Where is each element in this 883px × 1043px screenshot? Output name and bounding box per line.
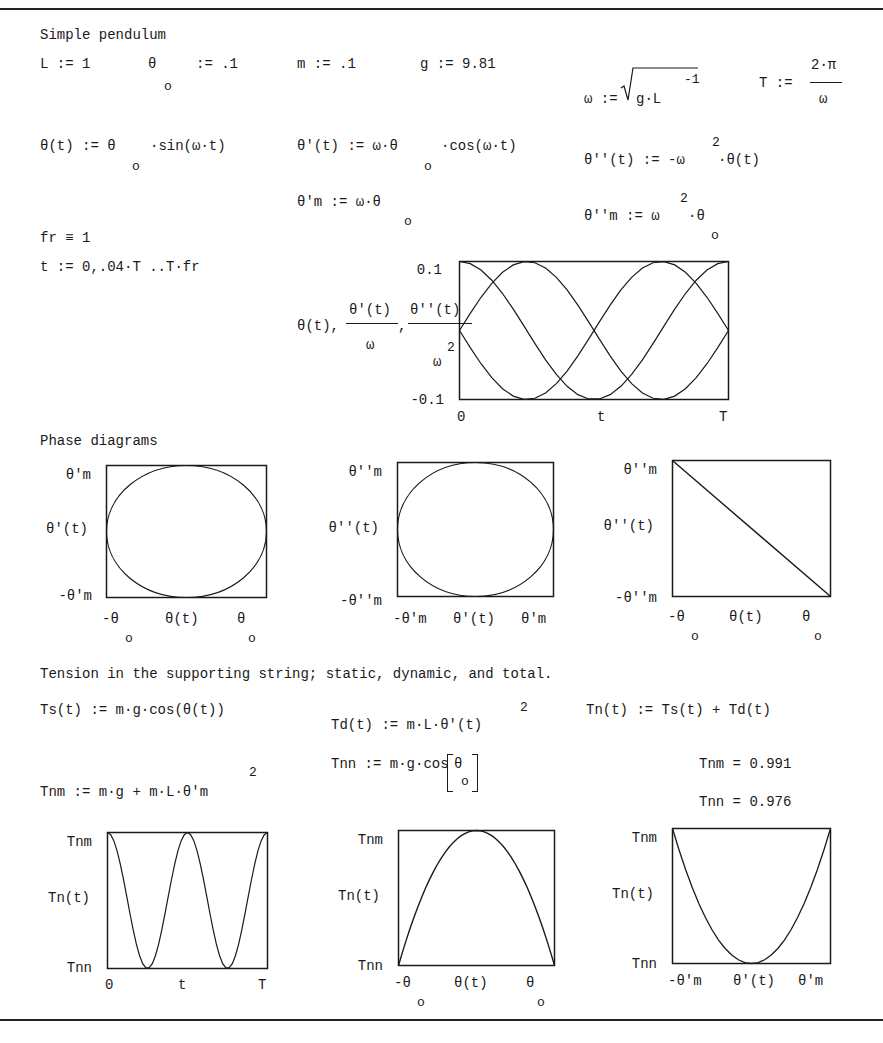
phase3-ytick-max: θ''m <box>623 462 657 478</box>
omega-radicand: g·L <box>636 91 661 107</box>
Tnm-result: Tnm = 0.991 <box>699 756 791 772</box>
tension2-ytick-min: Tnn <box>358 958 383 974</box>
phase1-xtick-min: -θ <box>102 611 119 627</box>
tension3-ytick-max: Tnm <box>632 830 657 846</box>
theta-t-rhs: ·sin(ω·t) <box>150 138 226 154</box>
tension3-ytick-min: Tnn <box>632 956 657 972</box>
tension3-xtick-max: θ'm <box>798 973 823 989</box>
time-plot-xlabel: t <box>597 409 605 425</box>
theta2m-subscript: o <box>711 229 719 242</box>
tension2-xtick-min: -θ <box>394 975 411 991</box>
time-plot-xtick-max: T <box>719 409 727 425</box>
tension2-xtick-max-sub: o <box>537 996 545 1009</box>
Ts-def[interactable]: Ts(t) := m·g·cos(θ(t)) <box>40 702 225 718</box>
tension3-plot[interactable] <box>672 828 831 964</box>
Tnm-def-exponent: 2 <box>249 766 257 779</box>
tension2-plot[interactable] <box>398 830 555 966</box>
Tnn-def-bracket-right <box>472 754 478 792</box>
bottom-rule <box>0 1019 883 1021</box>
param-m[interactable]: m := .1 <box>297 56 356 72</box>
time-plot-frac1-bar <box>346 323 398 324</box>
tension1-ylabel: Tn(t) <box>48 890 90 906</box>
tension1-canvas <box>107 832 268 969</box>
time-plot-ylabel-theta: θ(t), <box>297 318 339 334</box>
theta-t-def[interactable]: θ(t) := θ <box>40 138 116 154</box>
phase1-xtick-max-sub: o <box>248 632 256 645</box>
theta2-t-rhs: ·θ(t) <box>718 152 760 168</box>
tension1-ytick-max: Tnm <box>67 834 92 850</box>
Tnm-def[interactable]: Tnm := m·g + m·L·θ'm <box>40 784 208 800</box>
theta1-t-rhs: ·cos(ω·t) <box>441 138 517 154</box>
phase1-ytick-max: θ'm <box>66 467 91 483</box>
tension3-xtick-min: -θ'm <box>668 973 702 989</box>
fr-def[interactable]: fr ≡ 1 <box>40 230 90 246</box>
phase2-xtick-min: -θ'm <box>393 611 427 627</box>
Tnn-def-theta: θ <box>454 756 462 772</box>
phase1-xtick-min-sub: o <box>125 632 133 645</box>
t-range-def[interactable]: t := 0,.04·T ..T·fr <box>40 259 200 275</box>
tension2-xtick-min-sub: o <box>417 996 425 1009</box>
phase3-xtick-min: -θ <box>668 609 685 625</box>
omega-exponent: -1 <box>684 73 700 86</box>
tension2-canvas <box>398 830 555 966</box>
phase2-xlabel: θ'(t) <box>453 611 495 627</box>
T-def-lhs[interactable]: T := <box>759 75 793 91</box>
time-plot-ylabel-den2: ω <box>433 354 441 370</box>
time-plot-xtick-min: 0 <box>457 409 465 425</box>
phase3-ylabel: θ''(t) <box>604 518 654 534</box>
phase1-ytick-min: -θ'm <box>58 588 92 604</box>
time-plot-ytick-min: -0.1 <box>410 392 444 408</box>
tension1-xtick-min: 0 <box>105 977 113 993</box>
phase1-xtick-max: θ <box>237 611 245 627</box>
theta1m-def[interactable]: θ'm := ω·θ <box>297 194 381 210</box>
theta2m-def[interactable]: θ''m := ω <box>584 208 660 224</box>
time-plot-ytick-max: 0.1 <box>417 262 442 278</box>
time-plot[interactable] <box>459 261 729 400</box>
tension1-xlabel: t <box>178 977 186 993</box>
theta2m-exponent: 2 <box>680 192 688 205</box>
phase2-ylabel: θ''(t) <box>329 520 379 536</box>
tension3-canvas <box>672 828 831 964</box>
phase2-plot[interactable] <box>397 462 554 597</box>
tension1-plot[interactable] <box>107 832 268 969</box>
tension2-xlabel: θ(t) <box>454 975 488 991</box>
phase-heading: Phase diagrams <box>40 433 158 449</box>
phase1-ylabel: θ'(t) <box>46 521 88 537</box>
phase3-xlabel: θ(t) <box>729 609 763 625</box>
Tn-def[interactable]: Tn(t) := Ts(t) + Td(t) <box>586 702 771 718</box>
param-theta0-symbol[interactable]: θ <box>148 56 156 72</box>
theta2-t-exponent: 2 <box>712 136 720 149</box>
T-fraction-bar <box>810 82 842 83</box>
time-plot-ylabel-num2: θ''(t) <box>410 302 460 318</box>
omega-def-lhs[interactable]: ω := <box>584 91 618 107</box>
top-rule <box>0 8 883 10</box>
phase3-xtick-min-sub: o <box>691 630 699 643</box>
theta1-t-def[interactable]: θ'(t) := ω·θ <box>297 138 398 154</box>
theta1m-subscript: o <box>404 215 412 228</box>
tension-heading: Tension in the supporting string; static… <box>40 666 552 682</box>
tension2-ytick-max: Tnm <box>358 832 383 848</box>
tension3-ylabel: Tn(t) <box>612 886 654 902</box>
Tnn-def-subscript: o <box>461 775 469 788</box>
time-plot-canvas <box>459 261 729 400</box>
phase1-plot[interactable] <box>106 465 267 598</box>
phase3-xtick-max-sub: o <box>814 630 822 643</box>
phase2-ytick-min: -θ''m <box>340 593 382 609</box>
Tnn-def-bracket-left <box>447 754 453 792</box>
Tnn-def[interactable]: Tnn := m·g·cos <box>331 756 449 772</box>
T-def-denominator: ω <box>819 91 827 107</box>
phase2-canvas <box>397 462 554 597</box>
phase1-canvas <box>106 465 267 598</box>
param-theta0-value[interactable]: := .1 <box>196 56 238 72</box>
param-theta0-subscript: o <box>164 80 172 93</box>
phase1-xlabel: θ(t) <box>165 611 199 627</box>
time-plot-ylabel-den2-exp: 2 <box>447 341 455 354</box>
phase3-plot[interactable] <box>672 460 831 597</box>
Td-exponent: 2 <box>520 701 528 714</box>
theta2-t-def[interactable]: θ''(t) := -ω <box>584 152 685 168</box>
document-title: Simple pendulum <box>40 27 166 43</box>
param-L[interactable]: L := 1 <box>40 56 90 72</box>
Td-def[interactable]: Td(t) := m·L·θ'(t) <box>331 717 482 733</box>
tension3-xlabel: θ'(t) <box>733 973 775 989</box>
param-g[interactable]: g := 9.81 <box>420 56 496 72</box>
